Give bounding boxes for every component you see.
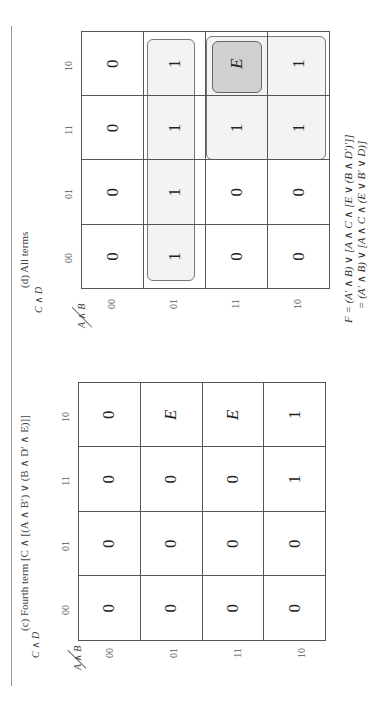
kmap-cell: 0 [264, 511, 326, 576]
panel-d-kmap: 0 0 0 0 1 1 1 1 0 0 1 E 0 0 1 1 [81, 31, 330, 289]
kmap-cell: 0 [79, 382, 141, 447]
panel-c-row-header: 01 [168, 641, 179, 665]
kmap-cell: 1 [144, 31, 206, 95]
kmap-cell: 0 [203, 511, 265, 576]
kmap-cell: 1 [264, 382, 326, 447]
kmap-cell: 0 [141, 576, 203, 641]
kmap-cell: 0 [79, 447, 141, 512]
kmap-cell: 0 [82, 95, 144, 159]
panel-c-col-header: 00 [60, 579, 71, 641]
panel-c-kmap: 0 0 0 0 0 0 0 E 0 0 0 E 0 0 1 1 [78, 382, 326, 641]
kmap-cell: 1 [268, 95, 330, 159]
kmap-cell: E [141, 382, 203, 447]
panel-c-row-header: 11 [232, 641, 243, 665]
kmap-cell: 0 [268, 160, 330, 224]
kmap-cell: E [203, 382, 265, 447]
panel-c-row-var: A ∧ B [72, 646, 83, 670]
kmap-cell: 0 [82, 160, 144, 224]
panel-d-row-header: 11 [230, 292, 241, 316]
panel-d-row-var: A ∧ B [76, 304, 87, 328]
kmap-cell: 0 [79, 576, 141, 641]
panel-c-col-var: C ∧ D [30, 632, 41, 658]
kmap-cell: 1 [144, 160, 206, 224]
panel-d-col-header: 11 [63, 99, 74, 161]
panel-d-col-var: C ∧ D [33, 287, 44, 313]
figure-page: (c) Fourth term [C ∧ [(A ∧ B′) ∨ (B ∧ D′… [0, 0, 373, 708]
panel-c-caption: (c) Fourth term [C ∧ [(A ∧ B′) ∨ (B ∧ D′… [18, 415, 31, 631]
top-rule [11, 26, 12, 686]
kmap-cell: 0 [203, 447, 265, 512]
kmap-cell: 1 [206, 95, 268, 159]
panel-d-row-header: 10 [292, 292, 303, 316]
panel-d-caption: (d) All terms [18, 232, 30, 288]
kmap-cell: 0 [79, 511, 141, 576]
kmap-cell: 0 [141, 511, 203, 576]
panel-d-row-header: 01 [168, 292, 179, 316]
kmap-cell: 0 [206, 224, 268, 288]
panel-c-col-header: 11 [60, 450, 71, 512]
panel-c-col-header: 10 [60, 386, 71, 448]
kmap-cell: 0 [82, 224, 144, 288]
kmap-cell: 1 [264, 447, 326, 512]
kmap-cell: 0 [203, 576, 265, 641]
formula-line-2: = (A′ ∧ B) ∨ [A ∧ C ∧ (E ∨ B′ ∨ D)] [355, 141, 368, 309]
kmap-cell: 0 [82, 31, 144, 95]
panel-d-col-header: 01 [63, 163, 74, 225]
kmap-cell: 0 [268, 224, 330, 288]
panel-c-col-header: 01 [60, 515, 71, 577]
formula-line-1: F = (A′ ∧ B) ∨ [A ∧ C ∧ [E ∨ (B ∧ D′)′]] [342, 134, 355, 323]
panel-d-col-header: 10 [63, 35, 74, 97]
panel-d-row-header: 00 [106, 292, 117, 316]
panel-d-col-header: 00 [63, 227, 74, 289]
kmap-cell: 0 [264, 576, 326, 641]
kmap-cell: 1 [268, 31, 330, 95]
kmap-cell: 1 [144, 224, 206, 288]
kmap-cell: 1 [144, 95, 206, 159]
panel-c-row-header: 00 [104, 641, 115, 665]
kmap-cell: 0 [141, 447, 203, 512]
kmap-cell: 0 [206, 160, 268, 224]
kmap-cell: E [206, 31, 268, 95]
panel-c-row-header: 10 [296, 641, 307, 665]
